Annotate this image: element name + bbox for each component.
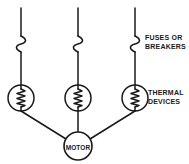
schematic-drawing: MOTOR <box>0 0 189 164</box>
phase-center-group <box>65 8 91 132</box>
fuses-label-line2: BREAKERS <box>145 43 186 52</box>
fuse-symbol-center-icon <box>74 36 83 52</box>
motor-group: MOTOR <box>64 132 92 160</box>
fuses-label-line1: FUSES OR <box>145 34 186 43</box>
fuses-or-breakers-label: FUSES OR BREAKERS <box>145 34 186 51</box>
thermal-label-line1: THERMAL <box>148 89 184 98</box>
motor-lead-left <box>21 111 66 139</box>
phase-left-group <box>8 8 66 139</box>
fuse-symbol-left-icon <box>17 36 26 52</box>
motor-circuit-diagram: MOTOR FUSES OR BREAKERS THERMAL DEVICES <box>0 0 189 164</box>
thermal-devices-label: THERMAL DEVICES <box>148 89 184 106</box>
phase-right-group <box>90 8 148 139</box>
fuse-symbol-right-icon <box>131 36 140 52</box>
motor-lead-right <box>90 111 135 139</box>
motor-label: MOTOR <box>66 144 91 151</box>
thermal-label-line2: DEVICES <box>148 98 184 107</box>
